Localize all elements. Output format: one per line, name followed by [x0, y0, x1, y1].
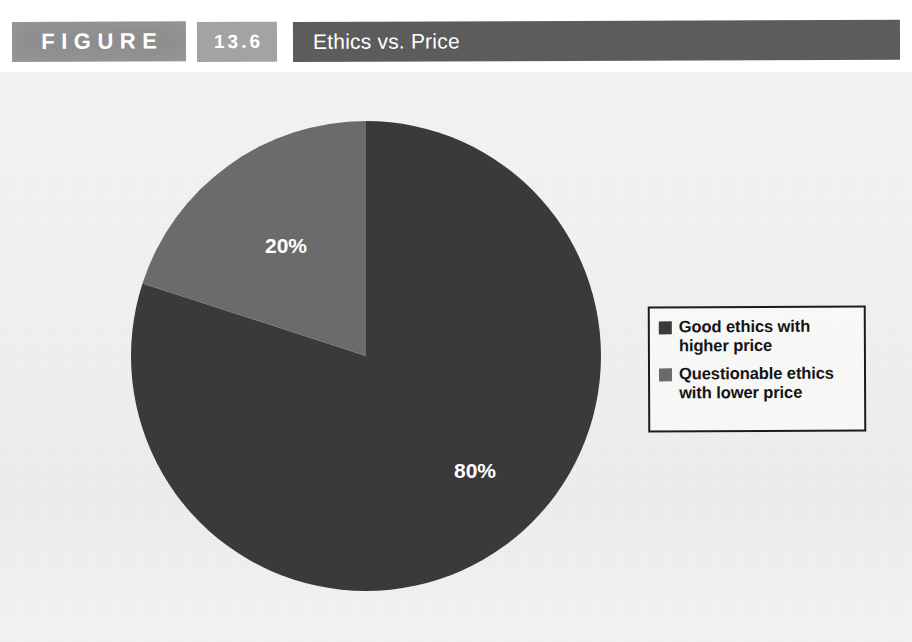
legend-item-good-ethics: Good ethics with higher price: [659, 317, 856, 356]
figure-label-text: FIGURE: [35, 28, 164, 54]
legend-label-questionable-ethics: Questionable ethics with lower price: [679, 364, 856, 403]
page-title: Ethics vs. Price: [313, 29, 460, 54]
legend-swatch-good-ethics: [659, 321, 672, 334]
legend-swatch-questionable-ethics: [659, 369, 672, 382]
pie-label-80: 80%: [454, 459, 496, 482]
pie-chart-svg: 20% 80%: [130, 118, 602, 596]
legend-label-good-ethics: Good ethics with higher price: [679, 317, 856, 356]
legend-item-questionable-ethics: Questionable ethics with lower price: [659, 364, 856, 403]
chart-legend: Good ethics with higher price Questionab…: [648, 306, 867, 433]
figure-number-text: 13.6: [211, 31, 263, 53]
figure-title-bar: Ethics vs. Price: [293, 20, 900, 62]
pie-chart: 20% 80%: [130, 118, 602, 596]
pie-label-20: 20%: [265, 234, 307, 257]
figure-label-block: FIGURE: [12, 21, 186, 62]
figure-number-block: 13.6: [197, 22, 277, 62]
figure-page: FIGURE 13.6 Ethics vs. Price 20% 80% Goo…: [0, 0, 912, 642]
